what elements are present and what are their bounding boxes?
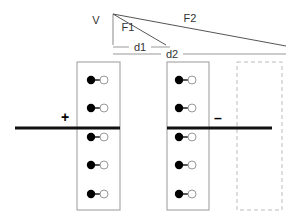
dipole-positive-charge [100, 161, 108, 169]
label-plus-sign: + [61, 109, 69, 125]
dipole-positive-charge [188, 190, 196, 198]
dielectric-slab-1 [77, 62, 120, 210]
dipole-negative-charge [87, 104, 95, 112]
empty-region-dashed [237, 62, 282, 210]
dipole-negative-charge [175, 133, 183, 141]
dipole-positive-charge [188, 104, 196, 112]
dipole-negative-charge [175, 104, 183, 112]
dipole-negative-charge [87, 76, 95, 84]
dipole-positive-charge [100, 133, 108, 141]
dipole-negative-charge [87, 161, 95, 169]
label-minus-sign: – [214, 110, 222, 126]
figure-canvas: V F1 F2 d1 d2 + – [0, 0, 288, 223]
dipole-positive-charge [188, 76, 196, 84]
dipole-negative-charge [175, 190, 183, 198]
dipole-positive-charge [188, 133, 196, 141]
dipole-negative-charge [175, 161, 183, 169]
label-v: V [92, 14, 100, 26]
label-d1: d1 [134, 41, 146, 53]
label-d2: d2 [166, 48, 178, 60]
dipole-negative-charge [175, 76, 183, 84]
dipole-positive-charge [100, 190, 108, 198]
dipole-positive-charge [188, 161, 196, 169]
dipole-negative-charge [87, 190, 95, 198]
diagram-svg: V F1 F2 d1 d2 + – [0, 0, 288, 223]
dipole-positive-charge [100, 76, 108, 84]
label-f1: F1 [122, 21, 135, 33]
dipole-negative-charge [87, 133, 95, 141]
dipole-positive-charge [100, 104, 108, 112]
label-f2: F2 [184, 12, 197, 24]
